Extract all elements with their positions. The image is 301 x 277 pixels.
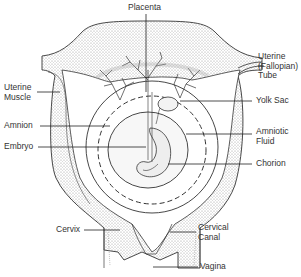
label-cervix: Cervix	[56, 225, 80, 235]
uterus-diagram: Placenta Uterine (Fallopian) Tube Uterin…	[0, 0, 301, 277]
label-amniotic-fluid: Amniotic Fluid	[256, 127, 289, 146]
label-uterine-tube-line3: Tube	[258, 71, 298, 81]
label-uterine-muscle: Uterine Muscle	[4, 83, 31, 102]
label-uterine-muscle-line2: Muscle	[4, 93, 31, 103]
label-vagina: Vagina	[200, 262, 226, 272]
label-amniotic-fluid-line2: Fluid	[256, 137, 289, 147]
label-cervical-canal: Cervical Canal	[198, 223, 229, 242]
yolk-sac	[158, 97, 178, 111]
label-cervical-canal-line2: Canal	[198, 233, 229, 243]
label-uterine-tube: Uterine (Fallopian) Tube	[258, 52, 298, 81]
label-amnion: Amnion	[4, 121, 33, 131]
label-chorion: Chorion	[256, 159, 286, 169]
label-embryo: Embryo	[4, 142, 33, 152]
label-placenta: Placenta	[128, 3, 161, 13]
label-yolk-sac: Yolk Sac	[256, 96, 289, 106]
